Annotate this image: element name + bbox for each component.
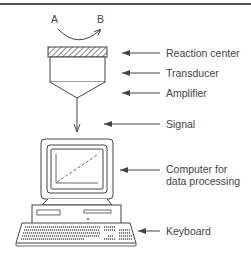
product-b-label: B (97, 13, 104, 25)
transducer-label: Transducer (166, 68, 219, 79)
computer-label-line2: data processing (166, 176, 240, 187)
reaction-center-label: Reaction center (166, 48, 240, 59)
amplifier-label: Amplifier (166, 88, 207, 99)
amplifier-triangle (50, 82, 105, 98)
transducer-block (50, 57, 105, 82)
keyboard-icon (16, 223, 136, 246)
reactant-a-label: A (51, 13, 58, 25)
reaction-arrow-icon (58, 29, 100, 40)
biosensor-diagram (0, 0, 251, 255)
keyboard-label: Keyboard (166, 226, 211, 237)
computer-label-line1: Computer for (166, 164, 227, 175)
signal-label: Signal (166, 119, 195, 130)
computer-icon (32, 139, 121, 225)
reaction-center-block (48, 47, 107, 57)
